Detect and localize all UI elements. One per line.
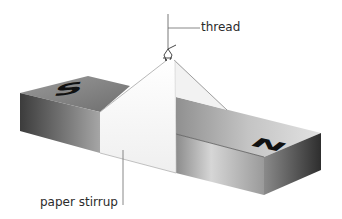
- thread-knot: [163, 45, 176, 60]
- knot-dot: [165, 59, 167, 61]
- magnet-stirrup-diagram: S N: [0, 0, 342, 219]
- thread-label: thread: [201, 21, 240, 33]
- paper-stirrup-label: paper stirrup: [40, 196, 118, 208]
